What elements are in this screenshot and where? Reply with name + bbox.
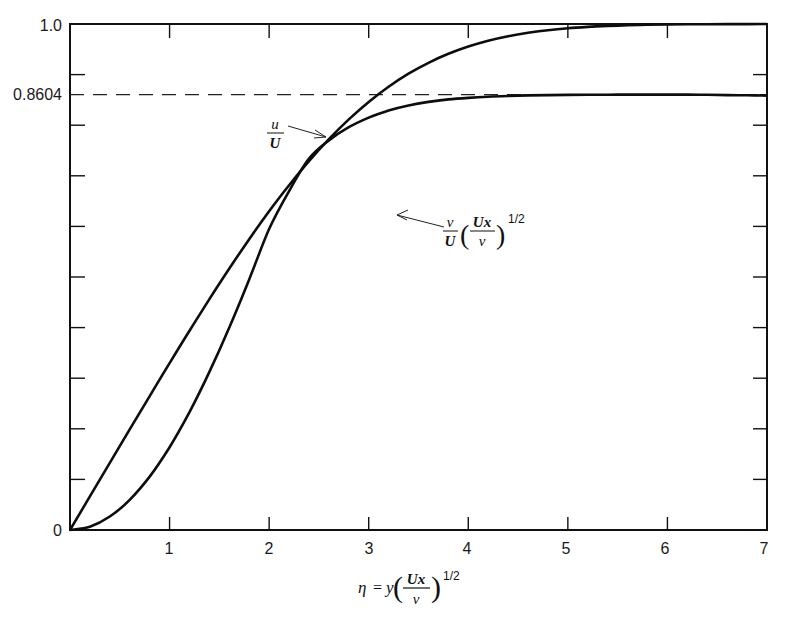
xlabel-rparen: ) — [431, 570, 441, 604]
v-arrow-line — [397, 215, 444, 227]
v-factor-num: Ux — [473, 214, 492, 230]
x-label-4: 4 — [463, 540, 472, 557]
v-factor-den: ν — [479, 233, 486, 249]
u-numerator: u — [271, 116, 279, 132]
y-label-ref: 0.8604 — [13, 86, 62, 103]
chart: 1.0 0.8604 0 1 2 3 4 5 6 7 η = y ( Ux ν … — [0, 0, 785, 620]
v-lparen: ( — [460, 219, 469, 250]
x-label-7: 7 — [760, 540, 769, 557]
u-denominator: U — [270, 135, 282, 151]
x-label-5: 5 — [562, 540, 571, 557]
xlabel-den: ν — [413, 591, 420, 607]
v-annotation: v U ( Ux ν ) 1/2 — [397, 210, 525, 250]
x-label-3: 3 — [365, 540, 374, 557]
v-exponent: 1/2 — [508, 212, 525, 226]
v-denominator: U — [445, 233, 457, 249]
xlabel-eta: η — [358, 578, 366, 597]
u-annotation: u U — [267, 116, 326, 151]
xlabel-num: Ux — [407, 571, 426, 587]
u-arrow-line — [288, 126, 326, 137]
x-label-2: 2 — [265, 540, 274, 557]
y-label-top: 1.0 — [40, 17, 62, 34]
u-over-U-curve — [70, 24, 767, 530]
y-label-zero: 0 — [53, 522, 62, 539]
xlabel-exp: 1/2 — [443, 569, 460, 583]
v-scaled-curve — [70, 95, 767, 530]
x-label-1: 1 — [165, 540, 174, 557]
axis-ticks — [70, 24, 767, 530]
xlabel-eq: = — [373, 579, 382, 596]
plot-frame — [70, 24, 767, 530]
v-numerator: v — [447, 214, 454, 230]
x-label-6: 6 — [661, 540, 670, 557]
x-axis-title: η = y ( Ux ν ) 1/2 — [358, 569, 460, 607]
xlabel-lparen: ( — [393, 570, 403, 604]
v-rparen: ) — [496, 219, 505, 250]
x-tick-labels: 1 2 3 4 5 6 7 — [165, 540, 769, 557]
